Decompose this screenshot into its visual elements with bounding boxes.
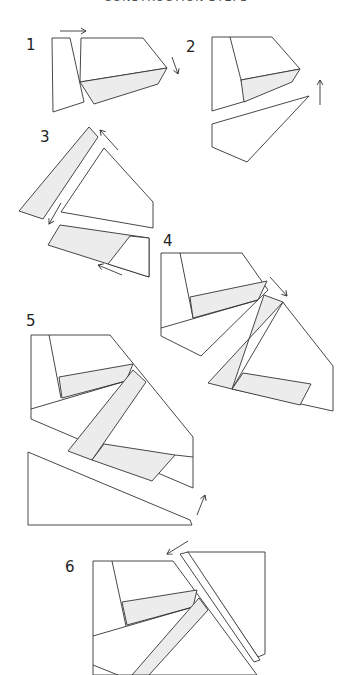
step-number-label: 4	[163, 232, 173, 250]
white-fabric-piece	[52, 38, 84, 112]
construction-diagram: 123456	[0, 0, 352, 675]
step-number-label: 5	[26, 312, 36, 330]
step-number-label: 1	[26, 36, 36, 54]
step-4: 4	[161, 232, 333, 411]
step-number-label: 2	[186, 38, 196, 56]
step-number-label: 6	[65, 558, 75, 576]
step-2: 2	[186, 37, 323, 162]
step-6: 6	[65, 541, 265, 675]
step-3: 3	[19, 127, 153, 277]
step-1: 1	[26, 28, 181, 112]
arrow-icon	[167, 541, 188, 554]
arrow-icon	[100, 130, 118, 150]
step-number-label: 3	[40, 128, 50, 146]
arrow-icon	[270, 277, 287, 296]
